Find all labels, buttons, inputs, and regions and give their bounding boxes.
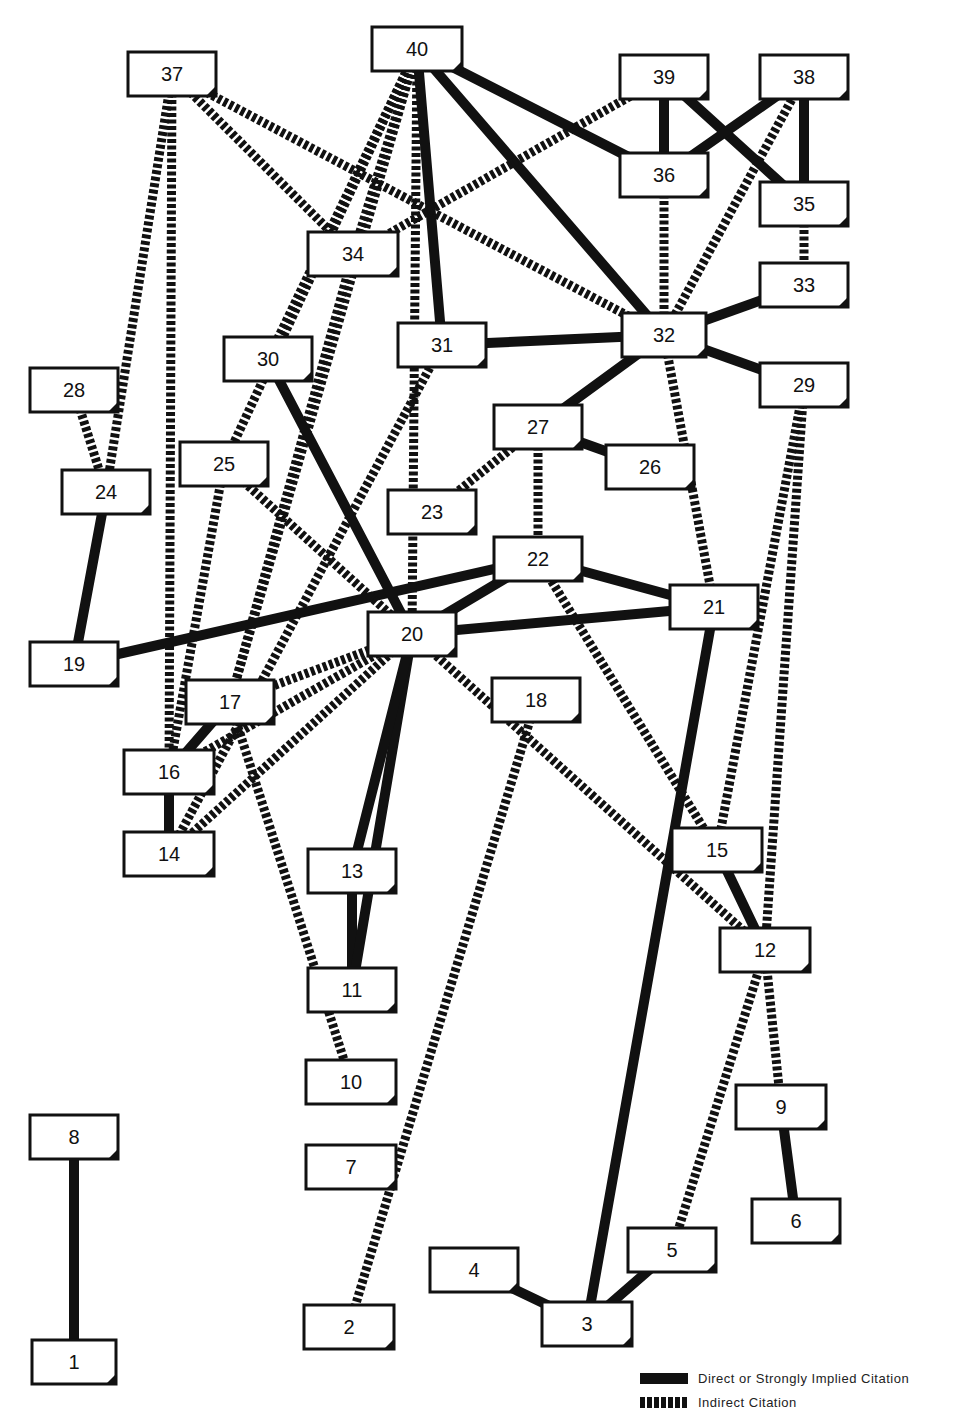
legend: Direct or Strongly Implied Citation Indi… — [640, 1366, 909, 1414]
node-32: 32 — [622, 313, 706, 357]
legend-direct-label: Direct or Strongly Implied Citation — [698, 1371, 909, 1386]
node-label: 37 — [161, 63, 183, 85]
node-13: 13 — [308, 849, 396, 893]
node-2: 2 — [304, 1305, 394, 1349]
node-7: 7 — [306, 1145, 396, 1189]
node-label: 33 — [793, 274, 815, 296]
edge-indirect-39-34 — [353, 77, 664, 254]
node-label: 2 — [343, 1316, 354, 1338]
node-37: 37 — [128, 52, 216, 96]
node-33: 33 — [760, 263, 848, 307]
node-18: 18 — [492, 678, 580, 722]
node-27: 27 — [494, 405, 582, 449]
node-label: 4 — [468, 1259, 479, 1281]
node-label: 29 — [793, 374, 815, 396]
node-label: 20 — [401, 623, 423, 645]
legend-direct: Direct or Strongly Implied Citation — [640, 1366, 909, 1390]
node-40: 40 — [372, 27, 462, 71]
edge-direct-21-3 — [587, 607, 714, 1324]
node-label: 28 — [63, 379, 85, 401]
node-29: 29 — [760, 363, 848, 407]
node-label: 18 — [525, 689, 547, 711]
node-1: 1 — [32, 1340, 116, 1384]
node-19: 19 — [30, 642, 118, 686]
node-35: 35 — [760, 182, 848, 226]
node-label: 25 — [213, 453, 235, 475]
node-3: 3 — [542, 1302, 632, 1346]
node-label: 22 — [527, 548, 549, 570]
node-label: 14 — [158, 843, 180, 865]
node-label: 23 — [421, 501, 443, 523]
node-label: 31 — [431, 334, 453, 356]
node-label: 38 — [793, 66, 815, 88]
node-31: 31 — [398, 323, 486, 367]
node-6: 6 — [752, 1199, 840, 1243]
node-10: 10 — [306, 1060, 396, 1104]
node-16: 16 — [124, 750, 214, 794]
legend-indirect: Indirect Citation — [640, 1390, 909, 1414]
node-9: 9 — [736, 1085, 826, 1129]
node-26: 26 — [606, 445, 694, 489]
node-label: 13 — [341, 860, 363, 882]
node-label: 19 — [63, 653, 85, 675]
node-label: 17 — [219, 691, 241, 713]
node-28: 28 — [30, 368, 118, 412]
edge-indirect-12-9 — [765, 950, 781, 1107]
node-label: 15 — [706, 839, 728, 861]
node-label: 10 — [340, 1071, 362, 1093]
node-label: 30 — [257, 348, 279, 370]
edge-direct-24-19 — [74, 492, 106, 664]
node-label: 40 — [406, 38, 428, 60]
node-label: 26 — [639, 456, 661, 478]
node-15: 15 — [672, 828, 762, 872]
edges-layer — [74, 49, 804, 1362]
node-38: 38 — [760, 55, 848, 99]
node-label: 6 — [790, 1210, 801, 1232]
direct-citation-swatch-icon — [640, 1373, 688, 1384]
node-23: 23 — [388, 490, 476, 534]
node-24: 24 — [62, 470, 150, 514]
node-8: 8 — [30, 1115, 118, 1159]
node-4: 4 — [430, 1248, 518, 1292]
node-22: 22 — [494, 537, 582, 581]
node-21: 21 — [670, 585, 758, 629]
node-label: 27 — [527, 416, 549, 438]
node-label: 12 — [754, 939, 776, 961]
node-label: 1 — [68, 1351, 79, 1373]
node-36: 36 — [620, 153, 708, 197]
edge-direct-40-31 — [417, 49, 442, 345]
node-label: 5 — [666, 1239, 677, 1261]
node-11: 11 — [308, 968, 396, 1012]
edge-indirect-37-16 — [169, 74, 172, 772]
node-label: 24 — [95, 481, 117, 503]
node-25: 25 — [180, 442, 268, 486]
node-label: 39 — [653, 66, 675, 88]
node-label: 3 — [581, 1313, 592, 1335]
node-label: 11 — [342, 979, 363, 1001]
node-label: 32 — [653, 324, 675, 346]
node-12: 12 — [720, 928, 810, 972]
node-14: 14 — [124, 832, 214, 876]
node-5: 5 — [628, 1228, 716, 1272]
edge-indirect-37-34 — [172, 74, 353, 254]
edge-direct-22-19 — [74, 559, 538, 664]
node-30: 30 — [224, 337, 312, 381]
citation-network-diagram: 1234567891011121314151617181920212223242… — [0, 0, 966, 1423]
node-label: 7 — [345, 1156, 356, 1178]
node-label: 9 — [775, 1096, 786, 1118]
node-label: 36 — [653, 164, 675, 186]
legend-indirect-label: Indirect Citation — [698, 1395, 797, 1410]
edge-indirect-20-12 — [412, 634, 765, 950]
node-39: 39 — [620, 55, 708, 99]
node-label: 8 — [68, 1126, 79, 1148]
edge-indirect-37-24 — [106, 74, 172, 492]
node-17: 17 — [186, 680, 274, 724]
node-34: 34 — [308, 232, 398, 276]
node-label: 35 — [793, 193, 815, 215]
node-label: 34 — [342, 243, 364, 265]
indirect-citation-swatch-icon — [640, 1397, 688, 1408]
node-20: 20 — [368, 612, 456, 656]
node-label: 16 — [158, 761, 180, 783]
node-label: 21 — [703, 596, 725, 618]
